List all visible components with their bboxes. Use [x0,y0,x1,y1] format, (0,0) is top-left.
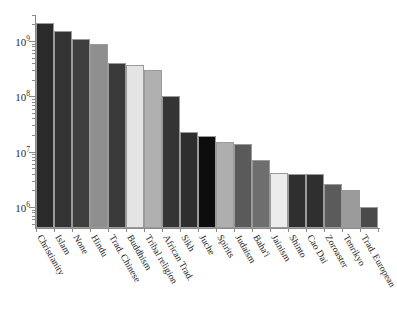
x-axis-ticks [36,228,378,232]
x-axis-tick-labels: ChristianityIslamNoneHinduTrad. ChineseB… [36,233,392,318]
bar [216,142,234,228]
bar [324,184,342,228]
x-tick-label: Juche [197,233,216,257]
bar [252,160,270,228]
x-tick [180,228,181,232]
bar [288,174,306,228]
x-tick [270,228,271,232]
x-tick [216,228,217,232]
y-tick-minor [32,181,35,182]
y-tick-label: 109 [15,34,30,48]
bar [360,207,378,228]
x-tick [54,228,55,232]
y-tick-minor [32,80,35,81]
x-tick-label: None [71,233,90,256]
y-tick-minor [32,219,35,220]
y-tick-minor [32,164,35,165]
x-tick [108,228,109,232]
bar [180,132,198,228]
y-tick-minor [32,99,35,100]
y-tick-minor [32,63,35,64]
x-tick [36,228,37,232]
x-tick-label: Hindu [89,233,110,259]
bar [198,136,216,228]
x-tick-label: Sikh [179,233,196,253]
y-tick-minor [32,53,35,54]
bar [234,144,252,228]
bar-series [36,15,378,228]
x-tick [360,228,361,232]
y-tick-minor [32,44,35,45]
bar [36,23,54,228]
x-tick [342,228,343,232]
bar [306,174,324,228]
y-tick-minor [32,46,35,47]
x-tick [288,228,289,232]
bar [342,190,360,228]
y-tick-minor [32,135,35,136]
y-tick-label: 106 [15,200,30,214]
bar [270,173,288,228]
x-tick [126,228,127,232]
x-tick [144,228,145,232]
x-tick [252,228,253,232]
y-tick-minor [32,216,35,217]
y-tick-minor [32,58,35,59]
y-axis-tick-labels: 106107108109 [0,0,30,318]
bar [54,31,72,228]
y-tick-minor [32,154,35,155]
x-tick [324,228,325,232]
y-tick-minor [32,24,35,25]
x-tick [162,228,163,232]
x-tick [90,228,91,232]
y-tick-minor [32,174,35,175]
y-tick-minor [32,168,35,169]
y-tick-minor [32,105,35,106]
y-tick-minor [32,50,35,51]
y-tick-minor [32,15,35,16]
x-tick [234,228,235,232]
bar [72,39,90,228]
y-tick-minor [32,160,35,161]
x-tick [306,228,307,232]
y-tick-minor [32,102,35,103]
y-tick-label: 108 [15,90,30,104]
y-tick-minor [32,118,35,119]
y-tick-minor [32,109,35,110]
y-tick-minor [32,113,35,114]
y-tick-minor [32,210,35,211]
x-tick [72,228,73,232]
y-tick-minor [32,224,35,225]
bar [162,96,180,228]
y-tick-minor [32,70,35,71]
x-tick [198,228,199,232]
bar [144,70,162,228]
y-tick-minor [32,157,35,158]
y-tick-minor [32,212,35,213]
x-tick [378,228,379,232]
y-tick-minor [32,190,35,191]
y-tick-minor [32,125,35,126]
bar [126,65,144,228]
y-tick-label: 107 [15,145,30,159]
bar [90,44,108,228]
bar [108,63,126,228]
